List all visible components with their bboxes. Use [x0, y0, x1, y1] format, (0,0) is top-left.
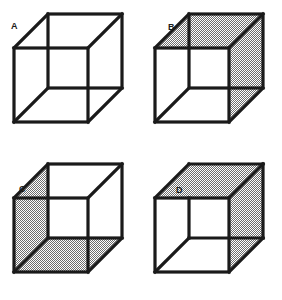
cube-c-drawing [0, 150, 141, 300]
cube-b-drawing [141, 0, 282, 150]
panel-d: D [141, 150, 282, 300]
panel-d-label: D [176, 186, 183, 195]
panel-a-label: A [11, 22, 18, 31]
panel-b-label: B [168, 23, 175, 32]
cube-d-drawing [141, 150, 282, 300]
panel-a: A [0, 0, 141, 150]
cube-a-drawing [0, 0, 141, 150]
necker-cube-figure: A B [0, 0, 282, 300]
panel-c: C [0, 150, 141, 300]
panel-c-label: C [19, 185, 26, 194]
panel-b: B [141, 0, 282, 150]
